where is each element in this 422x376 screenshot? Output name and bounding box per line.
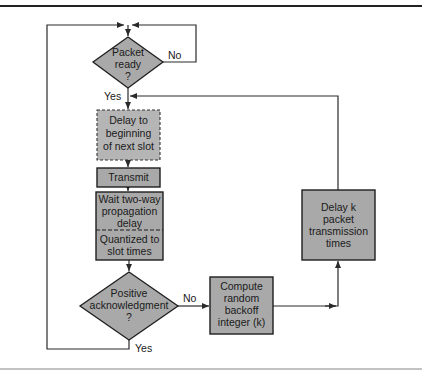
svg-text:times: times [326, 237, 351, 249]
svg-text:Packet: Packet [112, 46, 144, 58]
svg-text:transmission: transmission [309, 225, 368, 237]
svg-text:?: ? [125, 70, 131, 82]
svg-text:?: ? [126, 311, 132, 323]
svg-text:Delay to: Delay to [109, 114, 148, 126]
label-ack-no: No [183, 292, 197, 304]
flowchart-canvas: Packet ready ? No Yes Delay to beginning… [0, 0, 422, 376]
process-transmit: Transmit [97, 168, 160, 187]
edge-compute-delayk [273, 261, 338, 306]
svg-text:random: random [224, 292, 260, 304]
svg-text:integer (k): integer (k) [218, 316, 265, 328]
svg-text:packet: packet [323, 213, 354, 225]
svg-text:acknowledgment: acknowledgment [90, 299, 169, 311]
svg-text:Wait two-way: Wait two-way [98, 193, 161, 205]
label-packet-yes: Yes [104, 90, 121, 102]
svg-text:of next slot: of next slot [103, 140, 154, 152]
svg-text:Quantized to: Quantized to [100, 233, 160, 245]
process-delay-next-slot: Delay to beginning of next slot [97, 110, 160, 160]
label-packet-no: No [168, 49, 182, 61]
svg-text:propagation: propagation [102, 205, 158, 217]
edge-delayk-return [130, 96, 338, 190]
svg-text:delay: delay [117, 217, 143, 229]
process-delay-k: Delay k packet transmission times [302, 190, 375, 260]
decision-packet-ready: Packet ready ? [93, 37, 163, 88]
svg-text:Delay k: Delay k [321, 201, 357, 213]
label-ack-yes: Yes [135, 342, 152, 354]
svg-text:beginning: beginning [106, 127, 152, 139]
process-wait-propagation: Wait two-way propagation delay Quantized… [96, 192, 163, 260]
process-compute-backoff: Compute random backoff integer (k) [210, 277, 273, 334]
svg-text:Positive: Positive [111, 287, 148, 299]
svg-text:Transmit: Transmit [108, 171, 149, 183]
svg-text:Compute: Compute [220, 280, 263, 292]
svg-text:backoff: backoff [225, 304, 259, 316]
svg-text:ready: ready [115, 58, 142, 70]
decision-positive-ack: Positive acknowledgment ? [80, 272, 178, 340]
svg-text:slot times: slot times [107, 245, 151, 257]
